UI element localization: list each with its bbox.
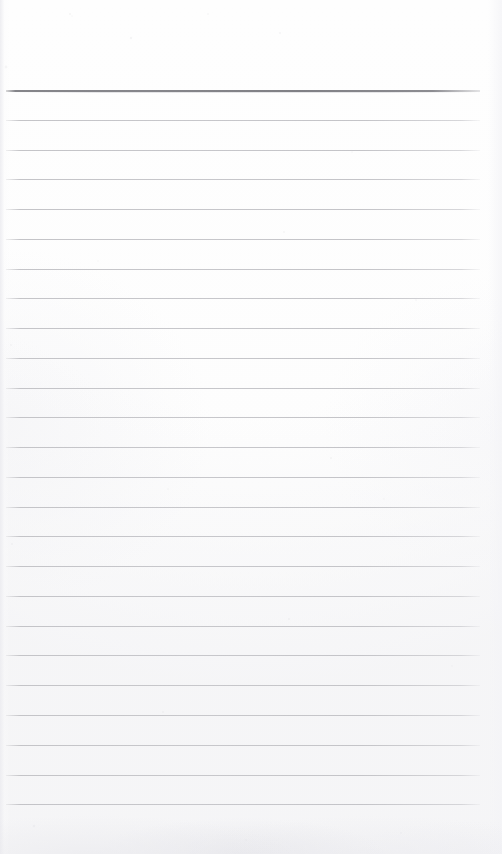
- notebook-page: [0, 0, 502, 854]
- writing-area[interactable]: [6, 90, 480, 806]
